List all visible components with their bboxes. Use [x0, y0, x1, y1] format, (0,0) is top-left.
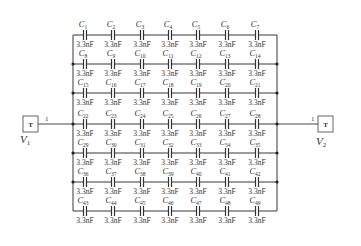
- junction-dot: [71, 91, 74, 94]
- capacitor-label: C47: [190, 195, 201, 206]
- capacitor-label: C32: [162, 137, 173, 148]
- junction-dot: [71, 151, 74, 154]
- junction-dot: [71, 62, 74, 65]
- capacitor-label: C26: [190, 108, 201, 119]
- capacitor-value: 3.3nF: [104, 98, 121, 107]
- capacitor-c43: C433.3nF: [76, 195, 93, 225]
- capacitor-c39: C393.3nF: [161, 166, 178, 196]
- capacitor-label: C5: [192, 19, 201, 30]
- port-v1-symbol: T: [28, 121, 33, 129]
- capacitor-c4: C43.3nF: [161, 19, 178, 49]
- capacitor-label: C16: [105, 77, 116, 88]
- junction-dot: [275, 151, 278, 154]
- capacitor-c12: C123.3nF: [189, 48, 206, 78]
- capacitor-c40: C403.3nF: [189, 166, 206, 196]
- capacitor-label: C25: [162, 108, 173, 119]
- capacitor-label: C8: [79, 48, 88, 59]
- capacitor-label: C23: [105, 108, 116, 119]
- capacitor-label: C45: [134, 195, 145, 206]
- capacitor-c38: C383.3nF: [133, 166, 150, 196]
- capacitor-c25: C253.3nF: [161, 108, 178, 138]
- capacitor-c48: C483.3nF: [218, 195, 235, 225]
- capacitor-label: C43: [77, 195, 88, 206]
- capacitor-c28: C283.3nF: [248, 108, 265, 138]
- capacitor-c8: C83.3nF: [76, 48, 93, 78]
- capacitor-c49: C493.3nF: [248, 195, 265, 225]
- capacitor-c2: C23.3nF: [104, 19, 121, 49]
- capacitor-label: C39: [162, 166, 173, 177]
- capacitor-value: 3.3nF: [218, 216, 235, 225]
- capacitor-c21: C213.3nF: [248, 77, 265, 107]
- capacitor-label: C20: [219, 77, 230, 88]
- capacitor-c11: C113.3nF: [161, 48, 178, 78]
- capacitor-c35: C353.3nF: [248, 137, 265, 167]
- capacitor-label: C46: [162, 195, 173, 206]
- capacitor-label: C11: [163, 48, 174, 59]
- capacitor-value: 3.3nF: [248, 216, 265, 225]
- capacitor-row: C363.3nFC373.3nFC383.3nFC393.3nFC403.3nF…: [71, 166, 278, 196]
- capacitor-label: C38: [134, 166, 145, 177]
- capacitor-c3: C33.3nF: [133, 19, 150, 49]
- port-v2-symbol: T: [323, 121, 328, 129]
- capacitor-value: 3.3nF: [161, 216, 178, 225]
- capacitor-value: 3.3nF: [76, 98, 93, 107]
- capacitor-row: C223.3nFC233.3nFC243.3nFC253.3nFC263.3nF…: [71, 108, 278, 138]
- capacitor-c20: C203.3nF: [218, 77, 235, 107]
- port-v1-pin: 1: [45, 115, 49, 123]
- capacitor-label: C14: [249, 48, 260, 59]
- capacitor-c23: C233.3nF: [104, 108, 121, 138]
- capacitor-value: 3.3nF: [189, 98, 206, 107]
- capacitor-c34: C343.3nF: [218, 137, 235, 167]
- capacitor-c14: C143.3nF: [248, 48, 265, 78]
- capacitor-label: C30: [105, 137, 116, 148]
- capacitor-value: 3.3nF: [104, 216, 121, 225]
- capacitor-c41: C413.3nF: [218, 166, 235, 196]
- capacitor-c29: C293.3nF: [76, 137, 93, 167]
- capacitor-label: C35: [249, 137, 260, 148]
- capacitor-c13: C133.3nF: [218, 48, 235, 78]
- capacitor-label: C40: [190, 166, 201, 177]
- capacitor-c37: C373.3nF: [104, 166, 121, 196]
- capacitor-c22: C223.3nF: [76, 108, 93, 138]
- capacitor-label: C10: [134, 48, 145, 59]
- capacitor-label: C19: [190, 77, 201, 88]
- port-v1-label: V1: [20, 133, 31, 147]
- capacitor-label: C4: [164, 19, 173, 30]
- port-v2-label: V2: [316, 135, 327, 149]
- capacitor-c31: C313.3nF: [133, 137, 150, 167]
- capacitor-label: C34: [219, 137, 230, 148]
- capacitor-c47: C473.3nF: [189, 195, 206, 225]
- capacitor-c19: C193.3nF: [189, 77, 206, 107]
- capacitor-label: C28: [249, 108, 260, 119]
- capacitor-c32: C323.3nF: [161, 137, 178, 167]
- capacitor-c30: C303.3nF: [104, 137, 121, 167]
- capacitor-label: C31: [134, 137, 145, 148]
- capacitor-label: C13: [219, 48, 230, 59]
- capacitor-label: C7: [251, 19, 260, 30]
- capacitor-c1: C13.3nF: [76, 19, 93, 49]
- capacitor-c26: C263.3nF: [189, 108, 206, 138]
- capacitor-c9: C93.3nF: [104, 48, 121, 78]
- junction-dot: [275, 91, 278, 94]
- capacitor-label: C29: [77, 137, 88, 148]
- capacitor-c42: C423.3nF: [248, 166, 265, 196]
- capacitor-label: C9: [107, 48, 116, 59]
- capacitor-label: C17: [134, 77, 145, 88]
- capacitor-value: 3.3nF: [76, 216, 93, 225]
- port-v2: T 1 V2: [277, 115, 333, 149]
- capacitor-c33: C333.3nF: [189, 137, 206, 167]
- circuit-canvas: T 1 V1 T 1 V2 C13.3nFC23.3nFC33.3nFC43.3…: [0, 0, 361, 246]
- capacitor-c7: C73.3nF: [248, 19, 265, 49]
- circuit-diagram: T 1 V1 T 1 V2 C13.3nFC23.3nFC33.3nFC43.3…: [0, 0, 361, 246]
- capacitor-label: C42: [249, 166, 260, 177]
- capacitor-c18: C183.3nF: [161, 77, 178, 107]
- capacitor-label: C24: [134, 108, 145, 119]
- junction-dot: [275, 180, 278, 183]
- capacitor-c16: C163.3nF: [104, 77, 121, 107]
- capacitor-label: C6: [221, 19, 230, 30]
- capacitor-row: C153.3nFC163.3nFC173.3nFC183.3nFC193.3nF…: [71, 77, 278, 107]
- capacitor-value: 3.3nF: [218, 98, 235, 107]
- capacitor-label: C49: [249, 195, 260, 206]
- capacitor-value: 3.3nF: [248, 98, 265, 107]
- capacitor-row: C13.3nFC23.3nFC33.3nFC43.3nFC53.3nFC63.3…: [73, 19, 277, 49]
